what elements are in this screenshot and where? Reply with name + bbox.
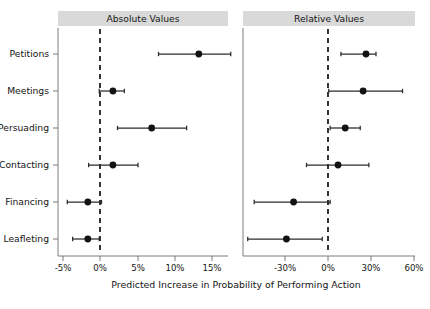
category-label-contacting: Contacting <box>0 159 49 170</box>
point-estimate-absolute-leafleting <box>84 236 91 243</box>
point-estimate-relative-meetings <box>360 88 367 95</box>
panel-strip-absolute: Absolute Values <box>58 11 228 26</box>
x-axis-title: Predicted Increase in Probability of Per… <box>111 279 360 290</box>
xticklabel-abs-4: 15% <box>202 263 221 273</box>
panel-title-absolute: Absolute Values <box>106 13 179 24</box>
category-label-financing: Financing <box>5 196 49 207</box>
point-estimate-absolute-financing <box>84 199 91 206</box>
point-estimate-absolute-contacting <box>110 162 117 169</box>
xticklabel-abs-2: 5% <box>131 263 145 273</box>
xticklabel-rel-1: 0% <box>321 263 335 273</box>
xticklabel-abs-0: -5% <box>55 263 72 273</box>
panel-title-relative: Relative Values <box>294 13 364 24</box>
point-estimate-relative-contacting <box>335 162 342 169</box>
xticklabel-abs-3: 10% <box>165 263 184 273</box>
panel-axes <box>58 28 415 256</box>
point-estimate-absolute-petitions <box>195 51 202 58</box>
point-estimate-relative-leafleting <box>283 236 290 243</box>
data-marks-relative <box>248 51 403 243</box>
category-label-persuading: Persuading <box>0 122 49 133</box>
xticklabel-rel-0: -30% <box>274 263 296 273</box>
panel-strip-relative: Relative Values <box>243 11 415 26</box>
point-estimate-relative-petitions <box>363 51 370 58</box>
point-estimate-relative-persuading <box>342 125 349 132</box>
category-label-petitions: Petitions <box>10 48 50 59</box>
xaxis-absolute: -5% 0% 5% 10% 15% <box>55 256 222 273</box>
point-estimate-absolute-persuading <box>148 125 155 132</box>
point-estimate-absolute-meetings <box>110 88 117 95</box>
xaxis-relative: -30% 0% 30% 60% <box>274 256 424 273</box>
category-axis: Petitions Meetings Persuading Contacting… <box>0 48 58 244</box>
point-estimate-relative-financing <box>290 199 297 206</box>
xticklabel-rel-3: 60% <box>404 263 423 273</box>
xticklabel-rel-2: 30% <box>361 263 380 273</box>
category-label-leafleting: Leafleting <box>4 233 50 244</box>
coefficient-plot-figure: Absolute Values Relative Values Petition… <box>0 0 430 309</box>
xticklabel-abs-1: 0% <box>93 263 107 273</box>
plot-canvas: Absolute Values Relative Values Petition… <box>0 0 430 309</box>
category-label-meetings: Meetings <box>7 85 49 96</box>
data-marks-absolute <box>67 51 230 243</box>
